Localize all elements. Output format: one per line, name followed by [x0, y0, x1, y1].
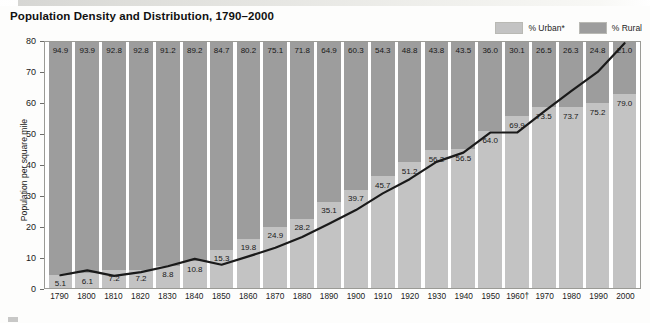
bar-segment-rural[interactable]: 21.0	[613, 42, 637, 94]
bar-value-rural: 30.1	[505, 47, 529, 55]
bar-segment-urban[interactable]: 69.9	[505, 116, 529, 288]
bar-segment-urban[interactable]: 45.7	[371, 176, 395, 288]
bar-column[interactable]: 93.96.1	[75, 42, 99, 288]
bar-segment-rural[interactable]: 75.1	[263, 42, 287, 227]
bar-segment-urban[interactable]: 51.2	[398, 162, 422, 288]
bar-column[interactable]: 43.556.5	[451, 42, 475, 288]
bar-segment-urban[interactable]: 35.1	[317, 202, 341, 288]
bar-segment-urban[interactable]: 19.8	[237, 239, 261, 288]
bar-segment-urban[interactable]: 7.2	[129, 270, 153, 288]
legend-label-urban: % Urban*	[528, 23, 564, 33]
bar-segment-urban[interactable]: 64.0	[478, 131, 502, 288]
bar-segment-rural[interactable]: 71.8	[290, 42, 314, 219]
x-tick-label: 1870	[263, 291, 287, 307]
bar-segment-urban[interactable]: 73.5	[532, 107, 556, 288]
bar-column[interactable]: 48.851.2	[398, 42, 422, 288]
bar-column[interactable]: 43.856.2	[425, 42, 449, 288]
bar-value-urban: 64.0	[478, 137, 502, 145]
bar-value-urban: 39.7	[344, 195, 368, 203]
bar-segment-urban[interactable]: 6.1	[75, 273, 99, 288]
bar-segment-rural[interactable]: 92.8	[129, 42, 153, 270]
y-tick-label: 70	[26, 67, 36, 77]
bar-segment-rural[interactable]: 64.9	[317, 42, 341, 202]
bar-column[interactable]: 75.124.9	[263, 42, 287, 288]
x-tick-label: 1830	[155, 291, 179, 307]
bar-value-rural: 21.0	[613, 47, 637, 55]
bar-column[interactable]: 54.345.7	[371, 42, 395, 288]
bar-segment-urban[interactable]: 10.8	[183, 261, 207, 288]
bar-column[interactable]: 71.828.2	[290, 42, 314, 288]
bar-segment-urban[interactable]: 24.9	[263, 227, 287, 288]
bar-segment-rural[interactable]: 92.8	[102, 42, 126, 270]
bar-column[interactable]: 94.95.1	[49, 42, 73, 288]
bar-value-urban: 73.5	[532, 113, 556, 121]
bar-segment-rural[interactable]: 84.7	[210, 42, 234, 250]
bar-column[interactable]: 91.28.8	[156, 42, 180, 288]
bar-segment-urban[interactable]: 39.7	[344, 190, 368, 288]
bar-segment-urban[interactable]: 79.0	[613, 94, 637, 288]
bar-segment-urban[interactable]: 75.2	[586, 103, 610, 288]
bar-segment-rural[interactable]: 93.9	[75, 42, 99, 273]
x-tick-label: 1790	[48, 291, 72, 307]
bar-segment-rural[interactable]: 94.9	[49, 42, 73, 275]
bar-segment-rural[interactable]: 43.8	[425, 42, 449, 150]
bar-segment-rural[interactable]: 89.2	[183, 42, 207, 261]
bar-column[interactable]: 80.219.8	[237, 42, 261, 288]
bar-column[interactable]: 92.87.2	[129, 42, 153, 288]
bar-segment-rural[interactable]: 43.5	[451, 42, 475, 149]
bar-segment-rural[interactable]: 48.8	[398, 42, 422, 162]
bar-segment-urban[interactable]: 8.8	[156, 266, 180, 288]
bar-value-urban: 7.2	[129, 275, 153, 283]
bar-column[interactable]: 30.169.9	[505, 42, 529, 288]
bar-segment-urban[interactable]: 15.3	[210, 250, 234, 288]
bar-column[interactable]: 26.373.7	[559, 42, 583, 288]
bar-segment-rural[interactable]: 26.3	[559, 42, 583, 107]
bar-column[interactable]: 89.210.8	[183, 42, 207, 288]
scan-artifact-band	[0, 0, 650, 6]
x-tick-label: 1860	[236, 291, 260, 307]
chart-page: Population Density and Distribution, 179…	[0, 0, 650, 323]
bar-column[interactable]: 36.064.0	[478, 42, 502, 288]
bar-value-urban: 19.8	[237, 244, 261, 252]
y-tick-label: 30	[26, 191, 36, 201]
bar-segment-rural[interactable]: 24.8	[586, 42, 610, 103]
bar-column[interactable]: 60.339.7	[344, 42, 368, 288]
bar-segment-urban[interactable]: 5.1	[49, 275, 73, 288]
bar-segment-urban[interactable]: 73.7	[559, 107, 583, 288]
bar-value-rural: 26.5	[532, 47, 556, 55]
legend-item-rural: % Rural	[579, 22, 642, 34]
bar-segment-rural[interactable]: 60.3	[344, 42, 368, 190]
x-tick-label: 1820	[128, 291, 152, 307]
x-tick-label: 1800	[75, 291, 99, 307]
bar-value-urban: 51.2	[398, 168, 422, 176]
bar-value-rural: 89.2	[183, 47, 207, 55]
x-tick-label: 1930	[425, 291, 449, 307]
bar-column[interactable]: 24.875.2	[586, 42, 610, 288]
bar-segment-urban[interactable]: 28.2	[290, 219, 314, 288]
bar-segment-urban[interactable]: 56.5	[451, 149, 475, 288]
bar-value-rural: 71.8	[290, 47, 314, 55]
bar-column[interactable]: 21.079.0	[613, 42, 637, 288]
x-tick-label: 1910	[371, 291, 395, 307]
y-tick-mark	[40, 289, 44, 290]
bar-column[interactable]: 26.573.5	[532, 42, 556, 288]
bar-segment-rural[interactable]: 26.5	[532, 42, 556, 107]
bar-segment-rural[interactable]: 30.1	[505, 42, 529, 116]
x-tick-label: 1960†	[506, 291, 530, 307]
x-tick-label: 1900	[344, 291, 368, 307]
bar-column[interactable]: 64.935.1	[317, 42, 341, 288]
bar-segment-urban[interactable]: 7.2	[102, 270, 126, 288]
bar-segment-rural[interactable]: 80.2	[237, 42, 261, 239]
bar-value-urban: 56.5	[451, 155, 475, 163]
bar-segment-rural[interactable]: 54.3	[371, 42, 395, 176]
bar-value-urban: 28.2	[290, 224, 314, 232]
bar-segment-urban[interactable]: 56.2	[425, 150, 449, 288]
bar-segment-rural[interactable]: 91.2	[156, 42, 180, 266]
bar-value-urban: 6.1	[75, 278, 99, 286]
bar-column[interactable]: 92.87.2	[102, 42, 126, 288]
bar-column[interactable]: 84.715.3	[210, 42, 234, 288]
bar-segment-rural[interactable]: 36.0	[478, 42, 502, 131]
bar-value-urban: 69.9	[505, 122, 529, 130]
y-axis: Population per square mile 0102030405060…	[0, 41, 44, 289]
bar-value-rural: 43.5	[451, 47, 475, 55]
